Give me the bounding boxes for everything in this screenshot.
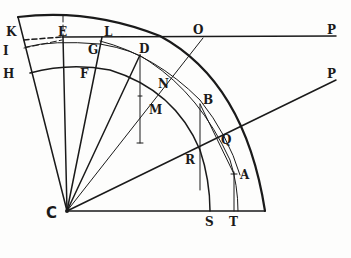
label-c: C	[46, 204, 57, 222]
label-m: M	[149, 103, 162, 117]
geometric-diagram: K E L O P I G D H F N M B P Q R A S T C	[0, 0, 351, 258]
label-r: R	[185, 153, 196, 167]
label-n: N	[158, 77, 169, 91]
diagram-canvas: K E L O P I G D H F N M B P Q R A S T C	[0, 0, 351, 258]
line-cd	[67, 55, 140, 211]
curve-lba	[100, 41, 240, 175]
label-k: K	[6, 25, 17, 39]
label-b: B	[203, 93, 213, 107]
label-q: Q	[221, 133, 231, 147]
label-o: O	[193, 23, 203, 37]
center-point-c	[65, 209, 69, 213]
line-cl	[67, 37, 102, 211]
arc-ik-dashed	[24, 40, 62, 48]
label-p-lower: P	[327, 67, 336, 81]
label-d: D	[139, 42, 149, 56]
label-f: F	[80, 67, 89, 81]
label-a: A	[239, 168, 250, 182]
label-s: S	[205, 215, 214, 229]
label-i: I	[3, 44, 9, 58]
line-cp	[67, 80, 336, 211]
label-e: E	[58, 25, 67, 39]
label-t: T	[229, 215, 238, 229]
inner-arc-hfmrs	[30, 67, 210, 211]
label-l: L	[104, 25, 113, 39]
label-p-upper: P	[327, 23, 336, 37]
label-g: G	[88, 43, 98, 57]
label-h: H	[3, 67, 14, 81]
line-ec	[63, 37, 67, 211]
line-ke-dashed	[24, 37, 62, 40]
left-boundary-line-ck	[18, 17, 67, 211]
